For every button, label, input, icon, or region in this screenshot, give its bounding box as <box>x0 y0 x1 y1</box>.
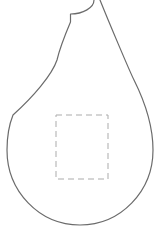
dashed-cutout-rect <box>56 115 108 179</box>
pear-shape-outline <box>7 0 153 225</box>
figure-canvas <box>0 0 157 236</box>
outline-drawing-svg <box>0 0 157 236</box>
